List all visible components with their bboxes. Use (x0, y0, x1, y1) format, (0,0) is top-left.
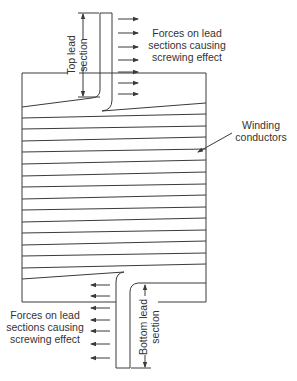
winding-label: Winding conductors (235, 119, 286, 143)
winding-conductors (22, 103, 206, 279)
diagram-canvas: Top lead section Forces on lead sections… (0, 0, 297, 381)
bottom-lead-label: Bottom lead section (137, 299, 161, 355)
top-forces-line3: screwing effect (152, 51, 222, 63)
winding-label-line1: Winding (242, 119, 280, 131)
top-lead-label-line1: Top lead (65, 35, 77, 75)
bottom-lead-label-line2: section (149, 310, 161, 343)
top-force-arrows (118, 19, 138, 94)
winding-leader-arrow (198, 133, 232, 152)
bottom-forces-line3: screwing effect (10, 333, 80, 345)
bottom-forces-label: Forces on lead sections causing screwing… (6, 309, 84, 345)
top-forces-label: Forces on lead sections causing screwing… (148, 27, 226, 63)
bottom-lead-label-line1: Bottom lead (137, 299, 149, 355)
bottom-forces-line2: sections causing (6, 321, 84, 333)
winding-label-line2: conductors (235, 131, 286, 143)
bottom-force-arrows (91, 285, 110, 358)
top-forces-line2: sections causing (148, 39, 226, 51)
top-forces-line1: Forces on lead (152, 27, 222, 39)
top-lead-label-line2: section (77, 38, 89, 71)
top-lead-label: Top lead section (65, 35, 89, 75)
bottom-lead-conductor (116, 272, 206, 368)
bottom-forces-line1: Forces on lead (10, 309, 80, 321)
